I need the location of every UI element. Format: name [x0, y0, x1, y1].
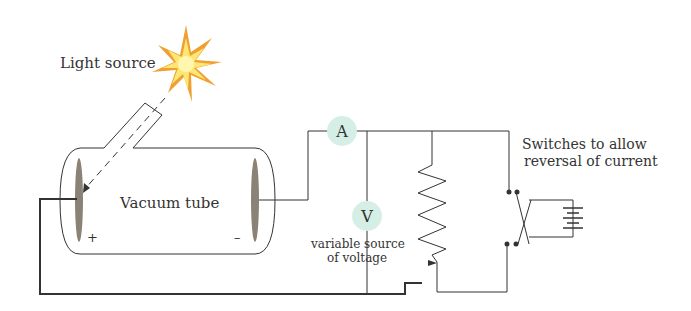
variable-source-label-2: of voltage: [327, 251, 387, 265]
anode-sign: +: [87, 230, 98, 245]
photoelectric-diagram: A V Light source Vacuum tube + – variabl…: [0, 0, 691, 311]
svg-text:V: V: [360, 207, 373, 226]
light-source-star-icon: [152, 25, 222, 102]
voltmeter-icon: V: [352, 201, 382, 231]
svg-text:A: A: [335, 122, 348, 141]
switches-label-2: reversal of current: [524, 153, 658, 169]
light-source-label: Light source: [60, 54, 156, 72]
light-beam: [84, 98, 165, 190]
vacuum-tube-label: Vacuum tube: [119, 194, 219, 212]
beam-arrow-icon: [83, 183, 90, 193]
resistor-icon: [418, 165, 446, 262]
switches-label-1: Switches to allow: [522, 136, 647, 152]
variable-source-label-1: variable source: [310, 237, 405, 251]
cathode-sign: –: [234, 230, 241, 245]
light-tube: [104, 103, 162, 148]
cathode-electrode: [251, 158, 259, 242]
ammeter-icon: A: [327, 116, 357, 146]
